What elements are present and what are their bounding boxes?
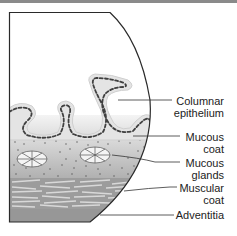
label-line: Columnar: [174, 95, 224, 107]
mucous-gland: [80, 147, 110, 163]
label-line: glands: [185, 169, 224, 181]
label-adventitia: Adventitia: [176, 209, 224, 221]
label-mucous-glands: Mucous glands: [185, 157, 224, 181]
label-line: Mucous: [185, 157, 224, 169]
label-line: Adventitia: [176, 209, 224, 221]
label-columnar-epithelium: Columnar epithelium: [174, 95, 224, 119]
mucous-gland: [17, 151, 47, 167]
label-line: Mucous: [185, 131, 224, 143]
label-mucous-coat: Mucous coat: [185, 131, 224, 155]
label-line: coat: [179, 194, 224, 206]
label-line: epithelium: [174, 107, 224, 119]
label-line: Muscular: [179, 182, 224, 194]
label-muscular-coat: Muscular coat: [179, 182, 224, 206]
label-line: coat: [185, 143, 224, 155]
